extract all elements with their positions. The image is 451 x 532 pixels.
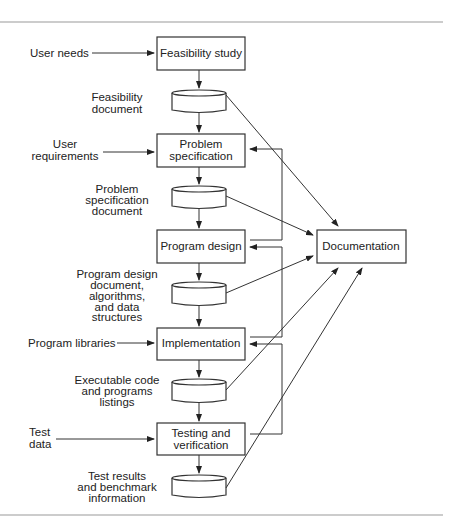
label-code-document: Executable code and programs listings (74, 374, 159, 408)
svg-text:Feasibility: Feasibility (91, 91, 142, 103)
input-program-libraries: Program libraries (28, 337, 116, 349)
svg-text:Feasibility study: Feasibility study (160, 47, 242, 59)
process-problem-specification: Problem specification (157, 134, 245, 167)
svg-text:information: information (89, 492, 146, 504)
input-user-needs: User needs (30, 47, 89, 59)
svg-text:listings: listings (99, 396, 134, 408)
input-user-requirements-1: User (53, 138, 77, 150)
label-design-document: Program design document, algorithms, and… (76, 268, 157, 323)
label-problem-spec-document: Problem specification document (85, 183, 148, 217)
svg-text:specification: specification (169, 150, 232, 162)
label-feasibility-document: Feasibility document (91, 91, 143, 115)
process-feasibility-study: Feasibility study (157, 37, 245, 70)
doc-cylinder-test-results (172, 475, 226, 498)
svg-text:Program design: Program design (160, 240, 241, 252)
doc-cylinder-feasibility (172, 90, 226, 113)
svg-text:document: document (92, 103, 143, 115)
doc-cylinder-problem-spec (172, 186, 226, 209)
input-test-data-2: data (29, 438, 52, 450)
input-test-data-1: Test (29, 426, 51, 438)
feedback-loops (250, 149, 282, 434)
svg-text:Testing and: Testing and (172, 427, 231, 439)
svg-text:Implementation: Implementation (162, 337, 241, 349)
svg-text:structures: structures (92, 311, 143, 323)
svg-text:verification: verification (174, 439, 229, 451)
process-documentation: Documentation (317, 230, 406, 263)
label-test-results-document: Test results and benchmark information (77, 470, 157, 504)
software-lifecycle-diagram: Feasibility study Problem specification … (0, 0, 451, 532)
doc-cylinder-code (172, 379, 226, 403)
documentation-arrows (226, 95, 362, 488)
process-program-design: Program design (157, 230, 245, 263)
doc-cylinder-design (172, 282, 226, 306)
svg-text:document: document (92, 205, 143, 217)
svg-text:Problem: Problem (180, 138, 223, 150)
process-testing-verification: Testing and verification (157, 423, 245, 455)
process-implementation: Implementation (157, 328, 245, 360)
svg-text:Documentation: Documentation (322, 240, 399, 252)
input-user-requirements-2: requirements (31, 150, 98, 162)
